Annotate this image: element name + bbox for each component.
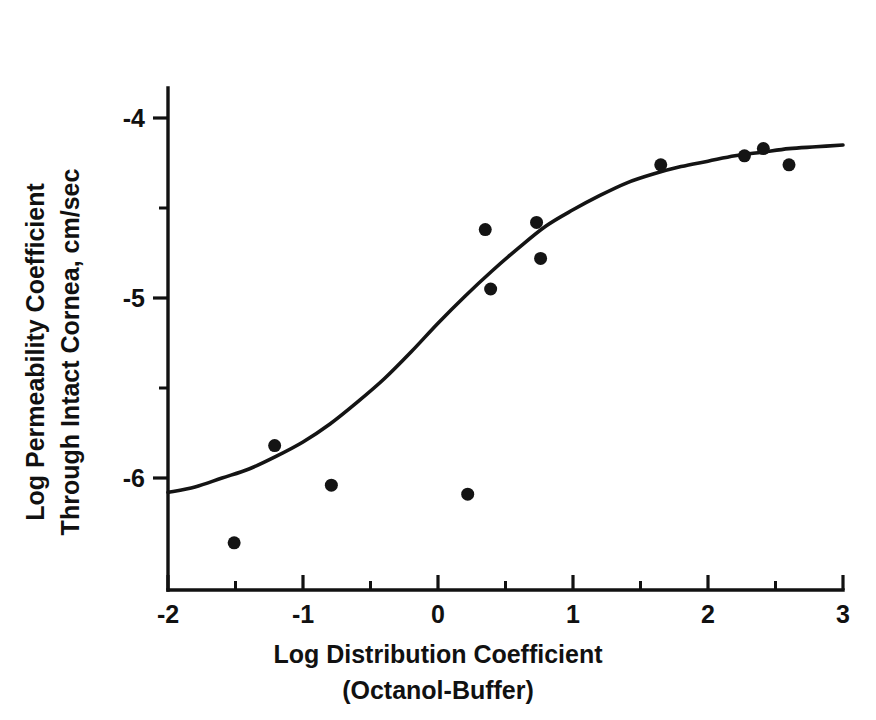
- y-axis-major-ticks: [153, 118, 168, 478]
- x-axis-tick-labels: -2-10123: [157, 600, 850, 628]
- figure-container: -2-10123 -4-5-6 Log Distribution Coeffic…: [0, 0, 876, 720]
- x-tick-label: -1: [292, 600, 314, 628]
- x-tick-label: 2: [701, 600, 715, 628]
- data-point: [654, 158, 667, 171]
- data-point: [479, 223, 492, 236]
- x-tick-label: 1: [566, 600, 580, 628]
- y-axis-title-line2: Through Intact Cornea, cm/sec: [56, 169, 84, 536]
- x-tick-label: -2: [157, 600, 179, 628]
- x-tick-label: 3: [836, 600, 850, 628]
- data-point: [268, 439, 281, 452]
- fit-curve: [168, 145, 843, 492]
- data-point: [228, 536, 241, 549]
- data-point: [461, 488, 474, 501]
- y-tick-label: -5: [123, 284, 145, 312]
- data-point: [325, 479, 338, 492]
- y-axis-tick-labels: -4-5-6: [123, 104, 145, 492]
- x-tick-label: 0: [431, 600, 445, 628]
- x-axis-title-line2: (Octanol-Buffer): [342, 676, 534, 704]
- data-point: [530, 216, 543, 229]
- data-point: [534, 252, 547, 265]
- y-tick-label: -6: [123, 464, 145, 492]
- data-point: [783, 158, 796, 171]
- x-axis-title-line1: Log Distribution Coefficient: [273, 640, 603, 668]
- data-point: [484, 283, 497, 296]
- chart-canvas: -2-10123 -4-5-6 Log Distribution Coeffic…: [0, 0, 876, 720]
- y-tick-label: -4: [123, 104, 145, 132]
- data-point: [757, 142, 770, 155]
- data-point: [738, 149, 751, 162]
- y-axis-title-line1: Log Permeability Coefficient: [21, 183, 49, 521]
- data-points: [228, 142, 796, 549]
